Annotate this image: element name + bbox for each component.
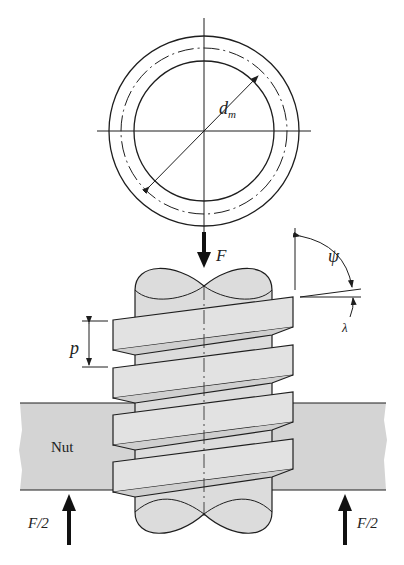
lambda-arc [350, 298, 353, 317]
angle-annotations [295, 228, 361, 317]
mean-diameter-label: dm [219, 99, 236, 120]
reaction-left-label: F/2 [28, 516, 49, 531]
nut-label: Nut [51, 440, 74, 455]
axial-force-label: F [216, 247, 226, 264]
reaction-right-label: F/2 [357, 516, 378, 531]
screw-end-view [97, 18, 311, 232]
thread-edge-extension [300, 289, 361, 297]
power-screw-diagram [0, 0, 404, 565]
reaction-arrow-left [62, 494, 76, 545]
psi-arc [300, 236, 352, 287]
lambda-label: λ [342, 321, 348, 334]
axial-force-arrow [197, 232, 211, 268]
mean-diameter-subscript: m [228, 108, 236, 120]
pitch-dimension [82, 321, 108, 367]
psi-label: ψ [328, 247, 339, 265]
reaction-arrow-right [338, 494, 352, 545]
mean-diameter-symbol: d [219, 98, 228, 118]
pitch-label: p [70, 339, 79, 357]
